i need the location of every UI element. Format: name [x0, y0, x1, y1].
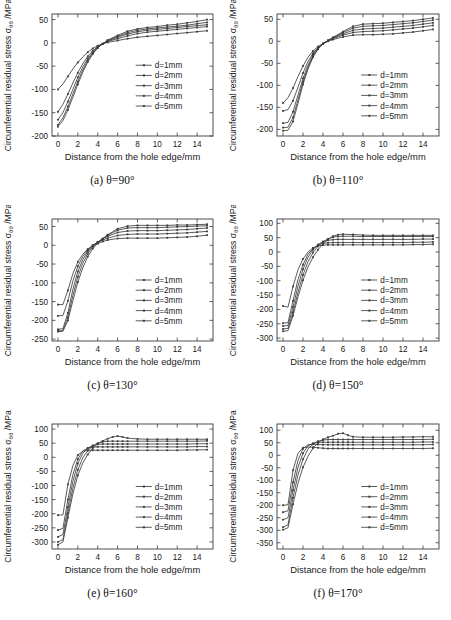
data-marker: [302, 448, 304, 450]
series-group: [282, 432, 434, 530]
data-marker: [402, 21, 404, 23]
legend-label: d=4mm: [380, 307, 408, 316]
legend: d=1mmd=2mmd=3mmd=4mmd=5mm: [136, 61, 183, 111]
data-marker: [432, 22, 434, 24]
data-marker: [117, 443, 119, 445]
data-marker: [117, 228, 119, 230]
x-tick-label: 8: [135, 140, 140, 149]
subplot-panel-a: 02468101214500-50-100-150-200d=1mmd=2mmd…: [0, 0, 225, 205]
data-marker: [322, 444, 324, 446]
data-marker: [382, 436, 384, 438]
x-tick-label: 10: [378, 553, 388, 562]
plot-area-panel-a: 02468101214500-50-100-150-200d=1mmd=2mmd…: [0, 0, 225, 172]
subplot-panel-f: 02468101214100500-50-100-150-200-250-300…: [225, 410, 451, 620]
data-marker: [382, 22, 384, 24]
data-marker: [432, 17, 434, 19]
data-marker: [206, 26, 208, 28]
curve-d-4mm: [283, 439, 433, 527]
curve-d-1mm: [58, 31, 207, 90]
legend-label: d=5mm: [380, 112, 408, 121]
data-marker: [102, 43, 104, 45]
data-marker: [176, 449, 178, 451]
y-tick-label: -100: [257, 476, 274, 485]
data-marker: [362, 441, 364, 443]
data-marker: [292, 503, 294, 505]
data-marker: [412, 27, 414, 29]
legend-marker: [143, 310, 145, 312]
y-tick-label: 0: [268, 37, 273, 46]
legend-marker: [368, 279, 370, 281]
data-marker: [347, 439, 349, 441]
data-marker: [432, 234, 434, 236]
subplot-caption: (b) θ=110°: [225, 174, 451, 186]
data-marker: [206, 223, 208, 225]
data-marker: [432, 436, 434, 438]
legend-label: d=3mm: [380, 91, 408, 100]
legend-label: d=5mm: [380, 317, 408, 326]
data-marker: [422, 448, 424, 450]
data-marker: [412, 31, 414, 33]
subplot-caption: (a) θ=90°: [0, 174, 225, 186]
x-tick-label: 0: [56, 140, 61, 149]
data-marker: [97, 449, 99, 451]
data-marker: [97, 243, 99, 245]
x-tick-label: 14: [193, 140, 203, 149]
data-marker: [337, 236, 339, 238]
data-marker: [402, 441, 404, 443]
x-tick-label: 4: [321, 553, 326, 562]
data-marker: [372, 34, 374, 36]
curve-d-4mm: [58, 441, 207, 542]
legend-marker: [143, 320, 145, 322]
data-marker: [127, 30, 129, 32]
data-marker: [156, 237, 158, 239]
legend-label: d=1mm: [155, 61, 183, 70]
curve-d-3mm: [58, 228, 207, 329]
data-marker: [77, 276, 79, 278]
data-marker: [347, 448, 349, 450]
data-marker: [166, 224, 168, 226]
plot-area-panel-e: 02468101214100500-50-100-150-200-250-300…: [0, 410, 225, 585]
data-marker: [382, 244, 384, 246]
data-marker: [327, 40, 329, 42]
data-marker: [362, 31, 364, 33]
data-marker: [196, 21, 198, 23]
data-marker: [67, 109, 69, 111]
data-marker: [206, 21, 208, 23]
x-tick-label: 10: [378, 140, 388, 149]
data-marker: [122, 446, 124, 448]
legend-label: d=1mm: [380, 276, 408, 285]
svg-text:Circumferential residual stres: Circumferential residual stress σθθ /MPa: [3, 410, 14, 563]
data-marker: [166, 446, 168, 448]
data-marker: [422, 26, 424, 28]
x-tick-label: 14: [418, 345, 428, 354]
data-marker: [186, 443, 188, 445]
data-marker: [87, 454, 89, 456]
y-tick-label: -200: [257, 501, 274, 510]
data-marker: [196, 446, 198, 448]
y-axis-title: Circumferential residual stress σθθ /MPa: [228, 410, 239, 563]
data-marker: [196, 438, 198, 440]
x-tick-label: 14: [193, 553, 203, 562]
data-marker: [362, 244, 364, 246]
data-marker: [352, 444, 354, 446]
x-tick-label: 0: [281, 553, 286, 562]
data-marker: [422, 244, 424, 246]
data-marker: [282, 127, 284, 129]
data-marker: [117, 238, 119, 240]
legend-label: d=5mm: [155, 102, 183, 111]
legend-label: d=5mm: [155, 317, 183, 326]
data-marker: [342, 448, 344, 450]
data-marker: [57, 315, 59, 317]
data-marker: [206, 449, 208, 451]
data-marker: [412, 448, 414, 450]
data-marker: [292, 489, 294, 491]
data-marker: [332, 441, 334, 443]
y-axis-title: Circumferential residual stress σθθ /MPa: [228, 0, 239, 151]
data-marker: [392, 238, 394, 240]
data-marker: [282, 511, 284, 513]
curve-d-3mm: [58, 25, 207, 120]
data-marker: [372, 30, 374, 32]
x-tick-label: 4: [321, 140, 326, 149]
y-axis-title: Circumferential residual stress σθθ /MPa: [3, 410, 14, 563]
data-marker: [327, 238, 329, 240]
